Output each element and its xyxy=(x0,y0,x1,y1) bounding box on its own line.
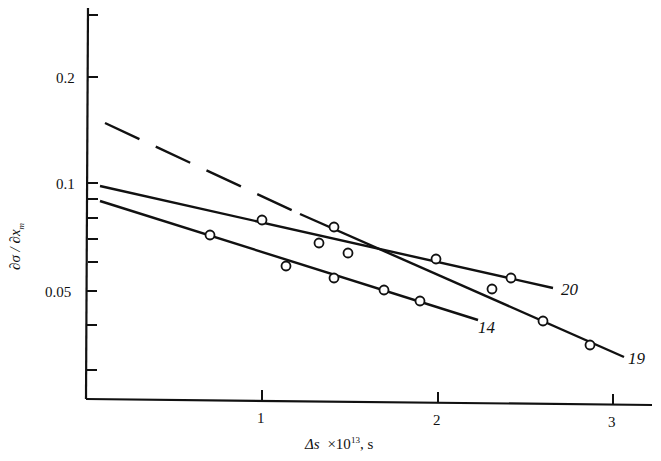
axes xyxy=(86,8,652,405)
point-14 xyxy=(330,274,339,283)
point-14 xyxy=(206,231,215,240)
series-label-20: 20 xyxy=(561,280,579,299)
y-tick-label-0.1: 0.1 xyxy=(56,176,75,192)
point-20 xyxy=(258,216,267,225)
point-14 xyxy=(380,286,389,295)
x-axis-title-variable: Δs xyxy=(304,436,320,452)
point-19 xyxy=(488,285,497,294)
y-tick-label-0.2: 0.2 xyxy=(56,70,75,86)
point-19 xyxy=(539,317,548,326)
y-axis-title: ∂σ / ∂xm xyxy=(7,222,26,270)
point-20 xyxy=(432,255,441,264)
x-tick-label-2: 2 xyxy=(433,412,441,428)
point-14 xyxy=(282,262,291,271)
y-axis xyxy=(86,8,88,399)
point-19 xyxy=(330,223,339,232)
point-20 xyxy=(315,239,324,248)
x-ticks xyxy=(262,390,613,405)
point-20 xyxy=(507,274,516,283)
point-14 xyxy=(416,297,425,306)
chart: 0.2 0.1 0.05 1 2 3 Δs ×1013, s ∂σ / ∂xm xyxy=(0,0,661,461)
series-19-dashed-segment xyxy=(105,123,300,214)
y-tick-label-0.05: 0.05 xyxy=(45,284,71,300)
x-axis xyxy=(86,399,652,405)
x-axis-title-unit: , s xyxy=(360,436,374,452)
y-axis-title-subscript: m xyxy=(16,222,26,229)
point-20 xyxy=(344,249,353,258)
data-points xyxy=(206,216,595,350)
series-label-19: 19 xyxy=(628,349,646,368)
x-axis-title: Δs ×1013, s xyxy=(304,435,373,452)
series-label-14: 14 xyxy=(478,318,496,337)
x-axis-title-multiplier: ×10 xyxy=(327,436,350,452)
x-tick-label-1: 1 xyxy=(257,410,265,426)
point-19 xyxy=(586,341,595,350)
y-axis-title-text: ∂σ / ∂x xyxy=(7,229,23,270)
x-tick-label-3: 3 xyxy=(608,414,616,430)
